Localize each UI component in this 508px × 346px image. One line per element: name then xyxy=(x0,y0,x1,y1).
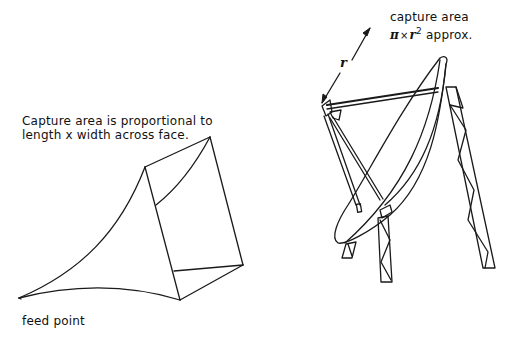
radius-label: r xyxy=(340,56,347,70)
approx-label: approx. xyxy=(426,28,473,42)
feed-point-label: feed point xyxy=(22,314,85,328)
diagram-canvas xyxy=(0,0,508,346)
dish-formula: π×r2 approx. xyxy=(390,24,473,43)
times-symbol: × xyxy=(400,30,409,41)
pi-symbol: π xyxy=(390,28,399,42)
horn-caption-line1: Capture area is proportional to xyxy=(22,114,213,128)
dish-caption-line1: capture area xyxy=(390,10,469,24)
dish-antenna-drawing xyxy=(322,28,495,282)
exponent: 2 xyxy=(416,26,422,36)
horn-caption-line2: length x width across face. xyxy=(22,128,189,142)
horn-antenna-drawing xyxy=(19,137,243,300)
